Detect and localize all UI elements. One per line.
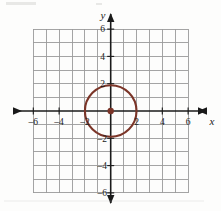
x-axis-left-arrow bbox=[13, 107, 22, 115]
x-tick-label: 4 bbox=[160, 117, 165, 127]
coordinate-plane-plot: –6 –4 –2 2 4 6 6 4 2 –2 –4 –6 x y bbox=[0, 0, 221, 211]
x-tick-label: –4 bbox=[53, 117, 64, 127]
x-tick-label: 6 bbox=[186, 117, 191, 127]
center-point bbox=[108, 108, 114, 114]
x-axis-label: x bbox=[209, 115, 215, 127]
y-tick-label: 4 bbox=[100, 52, 105, 62]
y-tick-label: 6 bbox=[100, 24, 105, 34]
y-tick-label: 2 bbox=[100, 79, 105, 89]
y-axis-down-arrow bbox=[107, 195, 114, 204]
figure-container: –6 –4 –2 2 4 6 6 4 2 –2 –4 –6 x y bbox=[0, 0, 221, 211]
x-tick-label: 2 bbox=[134, 117, 139, 127]
x-tick-label: –6 bbox=[28, 117, 39, 127]
y-tick-label: –4 bbox=[97, 161, 108, 171]
y-axis-label: y bbox=[100, 9, 106, 21]
y-axis-up-arrow bbox=[107, 13, 114, 22]
x-axis-right-arrow bbox=[198, 107, 207, 115]
y-tick-label: –2 bbox=[97, 134, 108, 144]
x-tick-label: –2 bbox=[79, 117, 90, 127]
y-tick-label: –6 bbox=[97, 188, 108, 198]
